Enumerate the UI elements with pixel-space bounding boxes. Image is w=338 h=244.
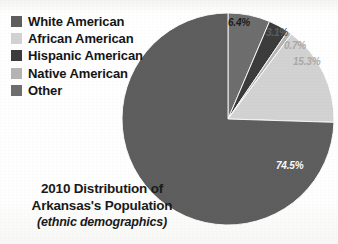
pie-slice-percentage-label: 74.5% (276, 160, 303, 171)
pie-slice-percentage-label: 6.4% (228, 17, 250, 28)
legend-item: White American (11, 13, 171, 30)
legend-item: Hispanic American (11, 47, 171, 64)
caption-line-1: 2010 Distribution of (14, 180, 190, 197)
legend-item: Other (11, 82, 171, 99)
legend-item-label: African American (28, 32, 134, 45)
legend-item-label: Other (28, 84, 62, 97)
legend-swatch-icon (11, 33, 22, 44)
chart-page: 6.4%3.1%0.7%15.3%74.5% White AmericanAfr… (0, 0, 338, 244)
chart-caption: 2010 Distribution of Arkansas's Populati… (14, 180, 190, 231)
legend-swatch-icon (11, 85, 22, 96)
legend-swatch-icon (11, 16, 22, 27)
pie-slice-percentage-label: 0.7% (284, 40, 306, 51)
legend-swatch-icon (11, 68, 22, 79)
legend-item-label: White American (28, 15, 124, 28)
caption-line-2: Arkansas's Population (14, 197, 190, 214)
legend-item: African American (11, 30, 171, 47)
legend-swatch-icon (11, 50, 22, 61)
chart-legend: White AmericanAfrican AmericanHispanic A… (11, 13, 171, 99)
pie-slice-percentage-label: 3.1% (266, 27, 288, 38)
legend-item-label: Native American (28, 67, 128, 80)
caption-subtitle: (ethnic demographics) (14, 214, 190, 231)
legend-item: Native American (11, 65, 171, 82)
legend-item-label: Hispanic American (28, 49, 143, 62)
pie-slice-percentage-label: 15.3% (293, 56, 320, 67)
